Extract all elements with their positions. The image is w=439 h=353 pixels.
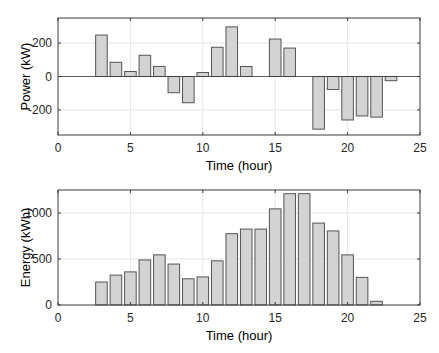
x-tick-label: 5 bbox=[127, 311, 134, 325]
bar bbox=[168, 77, 180, 93]
bar bbox=[154, 66, 166, 76]
x-tick-label: 20 bbox=[341, 141, 355, 155]
y-axis-label: Power (kW) bbox=[18, 43, 33, 111]
bar bbox=[342, 77, 354, 120]
chart-figure: 0510152025-2000200Time (hour)Power (kW)0… bbox=[0, 0, 439, 353]
bar bbox=[183, 77, 195, 103]
x-tick-label: 10 bbox=[196, 141, 210, 155]
bar bbox=[110, 275, 122, 305]
bar bbox=[226, 27, 238, 77]
x-tick-label: 25 bbox=[413, 311, 427, 325]
bar bbox=[96, 282, 108, 305]
bar bbox=[269, 39, 281, 76]
y-tick-label: 200 bbox=[32, 36, 52, 50]
bar bbox=[298, 194, 310, 305]
x-axis-label: Time (hour) bbox=[206, 328, 273, 343]
x-tick-label: 25 bbox=[413, 141, 427, 155]
bar bbox=[385, 77, 397, 81]
bar bbox=[197, 277, 209, 305]
x-tick-label: 15 bbox=[269, 141, 283, 155]
bar bbox=[139, 55, 151, 76]
y-tick-label: 500 bbox=[32, 252, 52, 266]
bar bbox=[240, 229, 252, 305]
bar bbox=[183, 279, 195, 305]
x-tick-label: 0 bbox=[55, 311, 62, 325]
bar bbox=[313, 223, 325, 305]
bar bbox=[211, 47, 223, 76]
chart-1: 051015202505001000Time (hour)Energy (kWh… bbox=[18, 190, 427, 343]
bar bbox=[125, 71, 137, 76]
bar bbox=[139, 260, 151, 305]
figure: 0510152025-2000200Time (hour)Power (kW)0… bbox=[0, 0, 439, 353]
x-tick-label: 15 bbox=[269, 311, 283, 325]
bar bbox=[110, 62, 122, 76]
x-tick-label: 0 bbox=[55, 141, 62, 155]
bar bbox=[154, 255, 166, 305]
bar bbox=[240, 66, 252, 76]
bar bbox=[96, 35, 108, 76]
bar bbox=[327, 77, 339, 90]
bar bbox=[284, 194, 296, 305]
bar bbox=[255, 229, 267, 305]
bar bbox=[342, 255, 354, 305]
bar bbox=[313, 77, 325, 130]
bar bbox=[284, 48, 296, 76]
x-axis-label: Time (hour) bbox=[206, 158, 273, 173]
x-tick-label: 5 bbox=[127, 141, 134, 155]
bar bbox=[226, 234, 238, 305]
bar bbox=[356, 77, 368, 116]
y-tick-label: 0 bbox=[45, 298, 52, 312]
bar bbox=[327, 231, 339, 305]
bar bbox=[371, 77, 383, 118]
x-tick-label: 20 bbox=[341, 311, 355, 325]
bar bbox=[197, 72, 209, 76]
chart-0: 0510152025-2000200Time (hour)Power (kW) bbox=[18, 18, 427, 173]
x-tick-label: 10 bbox=[196, 311, 210, 325]
y-tick-label: 0 bbox=[45, 70, 52, 84]
bar bbox=[269, 209, 281, 305]
y-axis-label: Energy (kWh) bbox=[18, 208, 33, 287]
bar bbox=[125, 272, 137, 305]
bar bbox=[211, 261, 223, 305]
bar bbox=[356, 277, 368, 305]
bar bbox=[371, 301, 383, 305]
bar bbox=[168, 264, 180, 305]
